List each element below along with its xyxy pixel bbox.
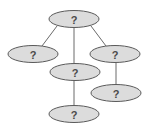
node-label: ? bbox=[72, 67, 79, 79]
node-middle-child: ? bbox=[49, 106, 99, 123]
tree-diagram: ?????? bbox=[0, 0, 149, 134]
node-label: ? bbox=[30, 49, 37, 61]
node-root: ? bbox=[49, 11, 99, 28]
nodes-group: ?????? bbox=[8, 11, 141, 123]
node-label: ? bbox=[71, 14, 78, 26]
node-label: ? bbox=[113, 88, 120, 100]
edge-root-to-right bbox=[91, 26, 106, 46]
edge-root-to-left bbox=[42, 26, 57, 46]
node-middle: ? bbox=[50, 64, 100, 81]
node-right-child: ? bbox=[91, 85, 141, 102]
node-left: ? bbox=[8, 46, 58, 63]
node-label: ? bbox=[112, 49, 119, 61]
node-label: ? bbox=[71, 109, 78, 121]
node-right: ? bbox=[90, 46, 140, 63]
